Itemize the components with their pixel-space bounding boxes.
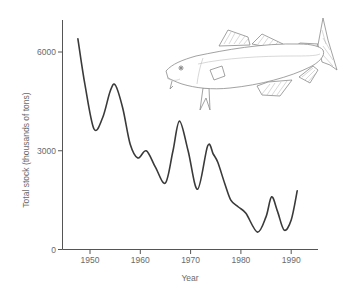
y-axis-title: Total stock (thousands of tons) <box>21 92 31 207</box>
x-tick-label: 1990 <box>282 255 301 265</box>
x-axis-ticks: 19501960197019801990 <box>81 250 301 266</box>
y-tick-label: 3000 <box>37 146 56 156</box>
x-tick-label: 1970 <box>181 255 200 265</box>
y-tick-label: 6000 <box>37 47 56 57</box>
y-axis-ticks: 030006000 <box>37 47 62 255</box>
y-tick-label: 0 <box>51 245 56 255</box>
stock-line-chart: 030006000 19501960197019801990 Year Tota… <box>0 0 354 301</box>
x-tick-label: 1960 <box>131 255 150 265</box>
x-tick-label: 1980 <box>231 255 250 265</box>
cod-fish-illustration <box>166 18 337 110</box>
x-axis-title: Year <box>181 273 198 283</box>
x-tick-label: 1950 <box>81 255 100 265</box>
